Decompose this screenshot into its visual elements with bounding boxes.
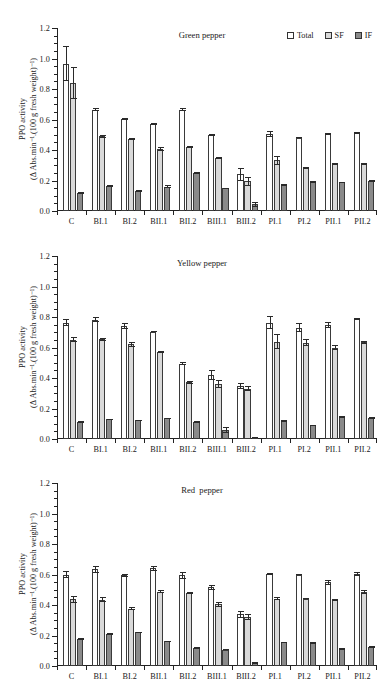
bar-total — [296, 328, 302, 439]
error-cap-top — [151, 566, 157, 567]
error-cap-top — [361, 341, 367, 342]
error-cap-bottom — [216, 387, 222, 388]
error-cap-top — [100, 597, 106, 598]
bar-if — [310, 643, 316, 666]
bar-sf — [128, 609, 134, 666]
error-cap-top — [100, 338, 106, 339]
error-cap-bottom — [281, 642, 287, 643]
error-cap-bottom — [151, 570, 157, 571]
error-bar — [270, 316, 271, 329]
error-cap-bottom — [93, 321, 99, 322]
x-tick-label: BI.1 — [93, 445, 107, 454]
bar-group: BII.1 — [144, 28, 173, 211]
x-tick-label: BI.2 — [123, 217, 137, 226]
error-bar — [160, 147, 161, 151]
error-cap-top — [216, 380, 222, 381]
error-bar — [153, 123, 154, 125]
error-cap-bottom — [339, 649, 345, 650]
bar-if — [77, 193, 83, 211]
bar-group: BIII.2 — [232, 256, 261, 439]
bar-total — [325, 325, 331, 439]
y-tick-label: 0.4 — [39, 146, 50, 155]
error-cap-bottom — [339, 417, 345, 418]
error-bar — [218, 602, 219, 607]
error-cap-top — [93, 566, 99, 567]
y-axis-title-line2: (Δ Abs.min⁻¹.(100 g fresh weight)⁻¹) — [28, 59, 39, 181]
error-cap-top — [361, 590, 367, 591]
x-tick — [57, 439, 58, 443]
y-axis-title-line2: (Δ Abs.min⁻¹.(100 g fresh weight)⁻¹) — [28, 514, 39, 636]
error-cap-top — [122, 574, 128, 575]
bar-group: BIII.1 — [202, 483, 231, 666]
error-cap-top — [180, 572, 186, 573]
error-bar — [335, 345, 336, 350]
x-tick-label: BII.1 — [150, 445, 167, 454]
error-cap-top — [238, 168, 244, 169]
error-cap-bottom — [238, 617, 244, 618]
error-cap-bottom — [332, 349, 338, 350]
error-bar — [80, 421, 81, 423]
bar-sf — [186, 382, 192, 439]
error-bar — [277, 597, 278, 599]
y-axis-title-line1: PPO activity — [17, 327, 28, 369]
bar-sf — [70, 83, 76, 211]
error-cap-bottom — [223, 432, 229, 433]
error-bar — [240, 383, 241, 389]
bar-total — [63, 323, 69, 439]
error-cap-bottom — [354, 133, 360, 134]
error-cap-bottom — [332, 600, 338, 601]
error-cap-top — [165, 185, 171, 186]
x-tick-label: BI.2 — [123, 445, 137, 454]
bar-group: PII.1 — [319, 28, 348, 211]
error-bar — [131, 342, 132, 347]
y-tick-label: 0.4 — [39, 374, 50, 383]
error-bar — [328, 133, 329, 135]
error-bar — [189, 592, 190, 594]
x-tick-label: BIII.1 — [207, 445, 227, 454]
error-cap-bottom — [281, 421, 287, 422]
plot-area: 0.00.20.40.60.81.01.2CBI.1BI.2BII.1BII.2… — [57, 28, 377, 211]
x-tick-label: BII.2 — [179, 672, 196, 681]
bar-group: BI.2 — [115, 256, 144, 439]
error-cap-bottom — [354, 575, 360, 576]
error-bar — [313, 642, 314, 644]
error-bar — [248, 614, 249, 620]
error-bar — [270, 131, 271, 138]
bar-sf — [274, 160, 280, 211]
error-cap-bottom — [107, 634, 113, 635]
bar-if — [368, 181, 374, 211]
error-cap-bottom — [187, 593, 193, 594]
bar-total — [266, 323, 272, 439]
bar-sf — [70, 599, 76, 666]
bar-sf — [186, 147, 192, 211]
error-bar — [95, 108, 96, 110]
y-axis-title-line2: (Δ Abs.min⁻¹.(100 g fresh weight)⁻¹) — [28, 287, 39, 409]
error-cap-top — [354, 572, 360, 573]
error-cap-top — [267, 131, 273, 132]
x-tick — [202, 666, 203, 670]
y-tick-label: 0.2 — [39, 404, 50, 413]
error-cap-bottom — [78, 422, 84, 423]
error-bar — [211, 585, 212, 590]
bar-sf — [128, 344, 134, 439]
x-tick-label: BI.1 — [93, 672, 107, 681]
error-cap-bottom — [252, 206, 258, 207]
error-bar — [211, 370, 212, 381]
plot-area: 0.00.20.40.60.81.01.2CBI.1BI.2BII.1BII.2… — [57, 256, 377, 439]
error-bar — [138, 632, 139, 634]
x-tick — [202, 211, 203, 215]
bar-group: PII.1 — [319, 256, 348, 439]
x-tick — [86, 666, 87, 670]
bar-if — [222, 650, 228, 666]
bar-if — [193, 422, 199, 439]
error-cap-bottom — [165, 641, 171, 642]
error-bar — [167, 641, 168, 643]
error-bar — [109, 185, 110, 187]
error-cap-bottom — [63, 577, 69, 578]
x-tick-label: PI.1 — [268, 445, 281, 454]
error-bar — [335, 163, 336, 165]
error-bar — [284, 420, 285, 422]
error-cap-bottom — [310, 643, 316, 644]
error-cap-top — [238, 383, 244, 384]
error-cap-bottom — [93, 572, 99, 573]
